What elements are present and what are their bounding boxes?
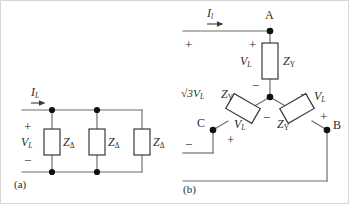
panel-b-source-voltage: √3VL	[181, 87, 204, 101]
impedance-box-a3	[134, 129, 150, 155]
circuit-schematic	[0, 0, 349, 204]
panel-a-impedance-label-2: ZΔ	[108, 136, 119, 150]
panel-a-current-label: IL	[31, 86, 39, 100]
panel-a-impedance-label-3: ZΔ	[153, 136, 164, 150]
node-dot-c	[210, 127, 217, 134]
panel-a-impedance-boxes	[44, 129, 150, 155]
panel-b-node-b-label: B	[333, 119, 341, 131]
panel-a-impedance-label-1: ZΔ	[63, 136, 74, 150]
panel-b-branch-b-impedance: ZY	[277, 118, 289, 132]
node-dot-a	[267, 28, 274, 35]
impedance-box-a2	[89, 129, 105, 155]
panel-b-minus-top: −	[252, 79, 259, 92]
panel-b-node-a-label: A	[265, 9, 274, 21]
panel-b-branch-b-voltage: VL	[314, 90, 325, 104]
node-dot	[49, 107, 55, 113]
panel-b-caption: (b)	[183, 183, 196, 195]
node-dot	[94, 107, 100, 113]
panel-a-caption: (a)	[14, 178, 26, 190]
panel-a-minus-sign: −	[24, 154, 31, 167]
panel-b-branch-c-impedance: ZY	[221, 88, 233, 102]
impedance-box-a1	[44, 129, 60, 155]
panel-b-current-arrow	[207, 22, 222, 26]
panel-a-voltage-label: VL	[21, 136, 32, 150]
panel-a-current-arrow	[31, 101, 44, 105]
panel-b-plus-left: +	[185, 38, 192, 51]
panel-b-branch-a-impedance: ZY	[283, 55, 295, 69]
panel-b-branch-b-plus: +	[320, 110, 327, 123]
panel-b-branch-a-voltage: VL	[240, 55, 251, 69]
panel-b-branch-c-voltage: VL	[234, 118, 245, 132]
node-dot	[49, 169, 55, 175]
circuit-figure: IL + VL − ZΔ ZΔ ZΔ (a) Il A + + VL ZY − …	[0, 0, 349, 204]
panel-a-plus-sign: +	[24, 120, 31, 133]
panel-b-minus-left: −	[185, 138, 192, 151]
node-dot-star	[267, 94, 274, 101]
node-dot-b	[324, 127, 331, 134]
panel-b-plus-top: +	[249, 38, 256, 51]
panel-b-node-c-label: C	[197, 117, 205, 129]
impedance-box-b-phase-a	[262, 43, 278, 79]
panel-b-branch-b-minus: −	[300, 88, 307, 101]
panel-b-center-minus: −	[263, 111, 270, 124]
panel-a-wiring	[22, 110, 142, 172]
node-dot	[94, 169, 100, 175]
panel-b-branch-c-plus: +	[227, 133, 234, 146]
panel-b-current-label: Il	[207, 7, 213, 21]
